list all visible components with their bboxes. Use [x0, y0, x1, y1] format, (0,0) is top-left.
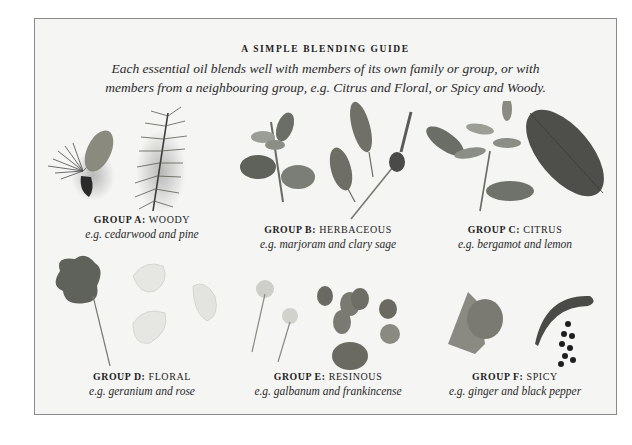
- intro-line-1: Each essential oil blends well with memb…: [35, 59, 616, 78]
- group-d-label: GROUP D: FLORAL: [47, 371, 237, 382]
- group-b-example: e.g. marjoram and clary sage: [233, 238, 423, 250]
- floral-image: [45, 251, 225, 371]
- group-c-caption: GROUP C: CITRUS e.g. bergamot and lemon: [420, 224, 610, 250]
- guide-title: A SIMPLE BLENDING GUIDE: [35, 44, 616, 54]
- resinous-image: [250, 264, 420, 379]
- group-d-example: e.g. geranium and rose: [47, 385, 237, 397]
- citrus-image: [425, 101, 615, 221]
- group-c-example: e.g. bergamot and lemon: [420, 238, 610, 250]
- group-e-label: GROUP E: RESINOUS: [233, 371, 423, 382]
- group-a-label: GROUP A: WOODY: [47, 214, 237, 225]
- group-f-label: GROUP F: SPICY: [420, 371, 610, 382]
- group-c-label: GROUP C: CITRUS: [420, 224, 610, 235]
- group-a-caption: GROUP A: WOODY e.g. cedarwood and pine: [47, 214, 237, 240]
- group-f-caption: GROUP F: SPICY e.g. ginger and black pep…: [420, 371, 610, 397]
- spicy-image: [440, 274, 610, 374]
- group-e-example: e.g. galbanum and frankincense: [233, 385, 423, 397]
- group-b-caption: GROUP B: HERBACEOUS e.g. marjoram and cl…: [233, 224, 423, 250]
- group-d-caption: GROUP D: FLORAL e.g. geranium and rose: [47, 371, 237, 397]
- group-a-example: e.g. cedarwood and pine: [47, 228, 237, 240]
- group-e-caption: GROUP E: RESINOUS e.g. galbanum and fran…: [233, 371, 423, 397]
- woody-image: [43, 101, 193, 216]
- guide-intro: Each essential oil blends well with memb…: [35, 59, 616, 97]
- group-f-example: e.g. ginger and black pepper: [420, 385, 610, 397]
- intro-line-2: members from a neighbouring group, e.g. …: [35, 78, 616, 97]
- group-b-label: GROUP B: HERBACEOUS: [233, 224, 423, 235]
- blending-guide-panel: A SIMPLE BLENDING GUIDE Each essential o…: [34, 18, 617, 415]
- herbaceous-image: [233, 97, 413, 222]
